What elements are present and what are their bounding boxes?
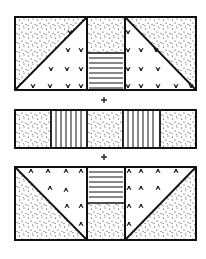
- bottom-center-strip: [87, 172, 125, 240]
- plus-sign-1: [101, 97, 107, 103]
- middle-block-5: [160, 110, 196, 148]
- top-left-square: [15, 17, 87, 90]
- bottom-right-square: [125, 167, 196, 240]
- top-right-square: [125, 17, 196, 90]
- top-panel: [15, 17, 196, 90]
- bottom-left-square: [15, 167, 87, 240]
- middle-block-3: [87, 110, 123, 148]
- bottom-panel: [15, 167, 196, 240]
- middle-block-2: [56, 111, 81, 147]
- middle-block-4: [128, 111, 153, 147]
- plus-sign-2: [101, 154, 107, 160]
- diagram-canvas: [0, 0, 206, 259]
- middle-panel: [15, 110, 196, 148]
- middle-block-1: [15, 110, 51, 148]
- top-center-strip: [87, 17, 125, 88]
